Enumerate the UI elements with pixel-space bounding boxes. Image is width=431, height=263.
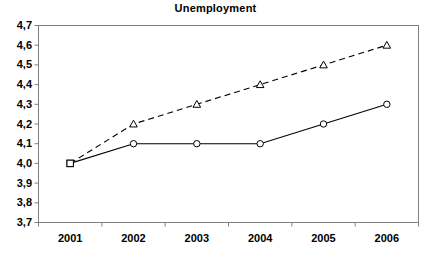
unemployment-line-chart: Unemployment 4,74,64,54,44,34,24,14,03,9… — [0, 0, 431, 263]
y-axis-tick-label: 4,4 — [2, 78, 32, 91]
y-axis-tick-label: 4,2 — [2, 118, 32, 131]
y-axis-tick-label: 4,5 — [2, 58, 32, 71]
data-point-marker — [130, 141, 136, 147]
y-axis-tick-label: 4,6 — [2, 39, 32, 52]
x-axis-ticks — [39, 223, 419, 227]
y-axis-tick-label: 3,9 — [2, 177, 32, 190]
data-point-marker — [384, 101, 390, 107]
y-axis-tick-label: 4,3 — [2, 98, 32, 111]
y-axis-tick-label: 3,8 — [2, 196, 32, 209]
data-point-marker — [194, 141, 200, 147]
plot-area — [0, 0, 431, 263]
data-point-marker — [320, 121, 326, 127]
y-axis-tick-label: 3,7 — [2, 216, 32, 229]
axis-frame — [39, 26, 419, 223]
x-axis-tick-label: 2006 — [355, 231, 418, 245]
data-point-marker — [67, 160, 73, 166]
x-axis-tick-label: 2003 — [165, 231, 228, 245]
x-axis-tick-label: 2001 — [39, 231, 102, 245]
y-axis-tick-label: 4,7 — [2, 19, 32, 32]
x-axis-tick-label: 2002 — [102, 231, 165, 245]
x-axis-tick-label: 2004 — [229, 231, 292, 245]
y-axis-tick-label: 4,0 — [2, 157, 32, 170]
data-point-marker — [257, 141, 263, 147]
y-axis-ticks — [35, 26, 39, 223]
x-axis-tick-label: 2005 — [292, 231, 355, 245]
y-axis-tick-label: 4,1 — [2, 137, 32, 150]
